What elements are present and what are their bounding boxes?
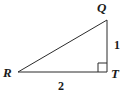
right-triangle-figure: Q R T 1 2: [0, 0, 131, 101]
vertex-label-t: T: [111, 67, 119, 80]
right-angle-marker-icon: [98, 63, 107, 72]
side-length-label-qt: 1: [114, 39, 120, 51]
triangle-outline: [18, 20, 107, 72]
side-length-label-rt: 2: [58, 80, 64, 92]
triangle-drawing: [0, 0, 131, 101]
vertex-label-q: Q: [97, 1, 106, 14]
vertex-label-r: R: [3, 66, 12, 79]
